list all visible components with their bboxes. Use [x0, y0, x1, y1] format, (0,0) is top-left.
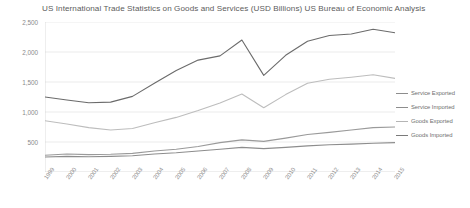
legend-line-icon [396, 107, 408, 108]
chart-plot-svg [45, 22, 395, 172]
legend-line-icon [396, 93, 408, 94]
legend-label: Goods Exported [411, 118, 453, 124]
legend-line-icon [396, 121, 408, 122]
chart-legend: Service ExportedService ImportedGoods Ex… [396, 86, 470, 142]
series-line [45, 29, 395, 103]
y-axis-tick-label: 1,000 [4, 109, 38, 116]
legend-item[interactable]: Goods Exported [396, 114, 470, 128]
legend-item[interactable]: Service Exported [396, 86, 470, 100]
y-axis-tick-label: 2,000 [4, 49, 38, 56]
y-axis-tick-label: 500 [4, 139, 38, 146]
legend-line-icon [396, 135, 408, 136]
legend-item[interactable]: Goods Imported [396, 128, 470, 142]
legend-item[interactable]: Service Imported [396, 100, 470, 114]
plot-area [45, 22, 395, 172]
legend-label: Service Imported [411, 104, 455, 110]
y-axis-tick-label: 1,500 [4, 79, 38, 86]
gridlines [45, 22, 395, 142]
legend-label: Service Exported [411, 90, 455, 96]
series-lines [45, 29, 395, 157]
chart-title: US International Trade Statistics on Goo… [42, 3, 442, 14]
legend-label: Goods Imported [411, 132, 452, 138]
y-axis-tick-label: 2,500 [4, 19, 38, 26]
series-line [45, 127, 395, 155]
chart-container: US International Trade Statistics on Goo… [0, 0, 470, 208]
